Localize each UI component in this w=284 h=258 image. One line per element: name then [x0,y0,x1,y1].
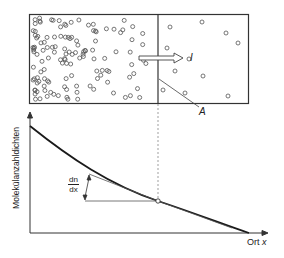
molecules [31,16,240,101]
density-curve [30,126,249,233]
derivative-numerator: dn [68,175,79,185]
diffusion-diagram [0,0,284,258]
y-axis-label: Molekülanzahldichten [11,108,21,228]
tangent-arrow-icon [83,175,91,200]
area-label: A [199,106,206,117]
x-axis-label: Ort x [247,237,267,247]
x-axis-label-text: Ort [247,237,260,247]
axes [28,112,269,236]
derivative-label: dn dx [68,175,79,194]
derivative-denominator: dx [68,185,79,194]
x-axis-variable: x [262,237,267,247]
tangent-point [156,199,160,203]
area-leader-line [159,79,199,107]
flux-label: I [190,52,193,63]
